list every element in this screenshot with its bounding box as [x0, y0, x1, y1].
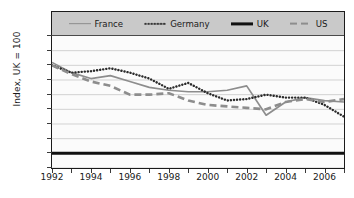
series-canvas [52, 36, 344, 168]
x-tick-2000: 2000 [188, 172, 228, 182]
legend-item-us: US [290, 19, 328, 29]
series-line-us [52, 65, 344, 109]
x-tick-1996: 1996 [110, 172, 150, 182]
legend-swatch-us-icon [290, 20, 312, 28]
x-tick-2006: 2006 [305, 172, 345, 182]
legend-label-france: France [95, 19, 124, 29]
line-chart: Index, UK = 100 951001051101151201251301… [0, 0, 354, 198]
series-line-france [52, 62, 344, 115]
x-tick-2004: 2004 [266, 172, 306, 182]
legend-item-germany: Germany [144, 19, 210, 29]
y-axis-title: Index, UK = 100 [12, 14, 22, 124]
x-tick-1998: 1998 [149, 172, 189, 182]
legend-swatch-france-icon [69, 20, 91, 28]
x-tick-1992: 1992 [32, 172, 72, 182]
plot-area [52, 36, 344, 168]
x-tick-2002: 2002 [227, 172, 267, 182]
legend-swatch-uk-icon [231, 20, 253, 28]
legend-swatch-germany-icon [144, 20, 166, 28]
legend-label-uk: UK [257, 19, 269, 29]
legend-item-uk: UK [231, 19, 269, 29]
legend-item-france: France [69, 19, 124, 29]
x-tick-1994: 1994 [71, 172, 111, 182]
legend-label-us: US [316, 19, 328, 29]
chart-legend: France Germany UK US [52, 12, 344, 36]
plot-frame: France Germany UK US [51, 11, 345, 169]
legend-label-germany: Germany [170, 19, 210, 29]
